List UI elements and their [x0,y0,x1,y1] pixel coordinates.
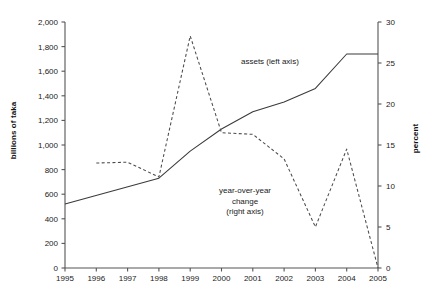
x-axis-tick-label: 1997 [119,274,137,283]
series-label-yoy-line3: (right axis) [196,207,294,218]
x-axis-tick-label: 1998 [150,274,168,283]
x-axis-tick-label: 1996 [87,274,105,283]
x-axis-tick-label: 2004 [338,274,356,283]
series-line [65,54,378,204]
series-lines [65,36,378,268]
series-label-assets: assets (left axis) [241,57,299,66]
series-label-yoy-line2: change [196,197,294,208]
tick-marks [62,22,382,272]
x-axis-tick-label: 2000 [213,274,231,283]
x-axis-tick-label: 2002 [275,274,293,283]
x-axis-tick-label: 1999 [181,274,199,283]
axis-lines [65,22,378,268]
plot-area [0,0,426,293]
chart-container: billions of taka percent 02004006008001,… [0,0,426,293]
series-label-yoy: year-over-year change (right axis) [196,186,294,218]
x-axis-tick-label: 1995 [56,274,74,283]
series-label-yoy-line1: year-over-year [196,186,294,197]
x-axis-tick-label: 2001 [244,274,262,283]
x-axis-tick-label: 2003 [306,274,324,283]
x-axis-tick-label: 2005 [369,274,387,283]
series-line [96,36,378,268]
